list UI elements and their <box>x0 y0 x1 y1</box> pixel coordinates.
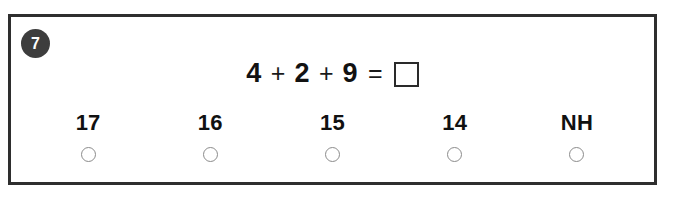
plus-icon-2: + <box>319 59 334 88</box>
option-label: 15 <box>320 111 345 135</box>
option-bubble[interactable] <box>447 147 462 162</box>
answer-option-4[interactable]: 14 <box>394 111 516 162</box>
answer-option-2[interactable]: 16 <box>149 111 271 162</box>
equation-term-2: 2 <box>294 58 310 89</box>
option-label: NH <box>561 111 593 135</box>
answer-input-box[interactable] <box>394 62 419 87</box>
equation-term-1: 4 <box>246 58 262 89</box>
equals-icon: = <box>368 59 383 88</box>
answer-options: 17 16 15 14 NH <box>27 111 638 162</box>
option-bubble[interactable] <box>325 147 340 162</box>
option-label: 16 <box>198 111 223 135</box>
option-label: 17 <box>76 111 101 135</box>
option-label: 14 <box>442 111 467 135</box>
equation-term-3: 9 <box>343 58 359 89</box>
question-card: 7 4 + 2 + 9 = 17 16 15 14 NH <box>8 14 657 185</box>
answer-option-3[interactable]: 15 <box>271 111 393 162</box>
option-bubble[interactable] <box>569 147 584 162</box>
option-bubble[interactable] <box>81 147 96 162</box>
plus-icon-1: + <box>271 59 286 88</box>
equation: 4 + 2 + 9 = <box>11 53 654 93</box>
answer-option-5[interactable]: NH <box>516 111 638 162</box>
option-bubble[interactable] <box>203 147 218 162</box>
answer-option-1[interactable]: 17 <box>27 111 149 162</box>
